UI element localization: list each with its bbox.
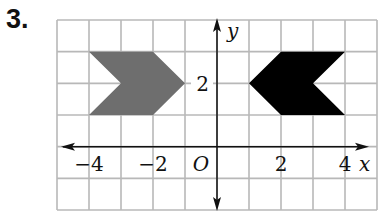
origin-label: O — [193, 152, 209, 176]
x-tick-label: −2 — [138, 152, 167, 176]
y-axis-label: y — [226, 19, 239, 43]
coordinate-grid: −4−2242Oxy — [0, 0, 391, 218]
y-tick-label: 2 — [196, 72, 209, 96]
x-tick-label: 4 — [339, 152, 352, 176]
x-tick-label: −4 — [74, 152, 103, 176]
x-tick-label: 2 — [275, 152, 288, 176]
x-axis-label: x — [359, 152, 370, 176]
